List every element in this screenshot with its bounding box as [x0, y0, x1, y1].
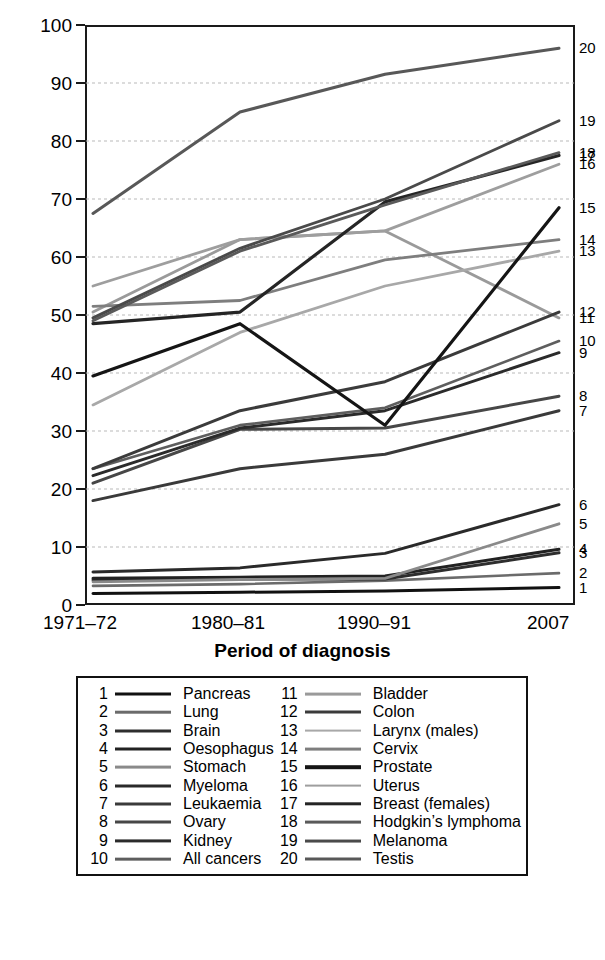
- legend-item-4[interactable]: 4Oesophagus: [84, 740, 274, 758]
- legend-line-swatch: [302, 761, 364, 773]
- legend-label: Prostate: [364, 759, 433, 775]
- end-label-16: 16: [579, 156, 596, 171]
- legend-number: 15: [274, 759, 302, 775]
- y-tick-mark-60: [76, 256, 85, 258]
- legend-line-swatch: [112, 780, 174, 792]
- y-tick-mark-100: [76, 24, 85, 26]
- legend-line-swatch: [302, 798, 364, 810]
- legend-number: 14: [274, 741, 302, 757]
- legend-item-5[interactable]: 5Stomach: [84, 759, 274, 777]
- y-tick-label-70: 70: [20, 190, 72, 209]
- y-tick-label-60: 60: [20, 248, 72, 267]
- legend-item-17[interactable]: 17Breast (females): [274, 795, 521, 813]
- legend-item-8[interactable]: 8Ovary: [84, 814, 274, 832]
- legend-label: Stomach: [174, 759, 246, 775]
- legend-label: Ovary: [174, 814, 226, 830]
- legend-line-swatch: [112, 743, 174, 755]
- legend-number: 16: [274, 778, 302, 794]
- figure-root: Percentage survival 01020304050607080901…: [0, 0, 605, 960]
- y-tick-label-10: 10: [20, 538, 72, 557]
- legend-label: Brain: [174, 723, 220, 739]
- end-label-2: 2: [579, 565, 587, 580]
- end-label-6: 6: [579, 497, 587, 512]
- legend-item-11[interactable]: 11Bladder: [274, 685, 521, 703]
- legend-label: Lung: [174, 704, 219, 720]
- series-line-20: [93, 48, 559, 213]
- series-line-10: [93, 341, 559, 469]
- legend-number: 10: [84, 851, 112, 867]
- y-tick-label-100: 100: [20, 16, 72, 35]
- legend-number: 17: [274, 796, 302, 812]
- legend-item-7[interactable]: 7Leukaemia: [84, 795, 274, 813]
- y-tick-mark-80: [76, 140, 85, 142]
- legend-item-10[interactable]: 10All cancers: [84, 850, 274, 868]
- legend-item-12[interactable]: 12Colon: [274, 703, 521, 721]
- legend-label: All cancers: [174, 851, 261, 867]
- y-tick-label-20: 20: [20, 480, 72, 499]
- legend-number: 7: [84, 796, 112, 812]
- legend-label: Oesophagus: [174, 741, 274, 757]
- legend-label: Uterus: [364, 778, 420, 794]
- y-tick-mark-0: [76, 604, 85, 606]
- x-tick-label-3: 2007: [527, 613, 569, 632]
- legend-label: Melanoma: [364, 833, 448, 849]
- legend-number: 19: [274, 833, 302, 849]
- legend-line-swatch: [112, 853, 174, 865]
- legend-number: 3: [84, 723, 112, 739]
- legend-item-14[interactable]: 14Cervix: [274, 740, 521, 758]
- series-line-17: [93, 156, 559, 324]
- legend-label: Bladder: [364, 686, 428, 702]
- series-line-1: [93, 588, 559, 594]
- series-line-5: [93, 524, 559, 582]
- legend-label: Testis: [364, 851, 414, 867]
- legend-number: 4: [84, 741, 112, 757]
- end-label-3: 3: [579, 545, 587, 560]
- legend-label: Colon: [364, 704, 415, 720]
- line-chart: Percentage survival 01020304050607080901…: [0, 0, 605, 670]
- legend-line-swatch: [112, 816, 174, 828]
- end-label-13: 13: [579, 243, 596, 258]
- legend-number: 12: [274, 704, 302, 720]
- legend-item-15[interactable]: 15Prostate: [274, 759, 521, 777]
- legend-item-16[interactable]: 16Uterus: [274, 777, 521, 795]
- series-canvas: [85, 25, 575, 605]
- end-label-8: 8: [579, 388, 587, 403]
- legend-item-2[interactable]: 2Lung: [84, 703, 274, 721]
- legend-item-1[interactable]: 1Pancreas: [84, 685, 274, 703]
- legend-item-20[interactable]: 20Testis: [274, 850, 521, 868]
- y-tick-mark-10: [76, 546, 85, 548]
- legend-line-swatch: [302, 688, 364, 700]
- y-tick-label-90: 90: [20, 74, 72, 93]
- legend-column-1: 1Pancreas2Lung3Brain4Oesophagus5Stomach6…: [84, 685, 274, 868]
- legend-line-swatch: [302, 835, 364, 847]
- legend-item-6[interactable]: 6Myeloma: [84, 777, 274, 795]
- y-tick-mark-20: [76, 488, 85, 490]
- series-line-7: [93, 411, 559, 501]
- legend-number: 9: [84, 833, 112, 849]
- y-tick-mark-40: [76, 372, 85, 374]
- legend-item-9[interactable]: 9Kidney: [84, 832, 274, 850]
- legend-item-19[interactable]: 19Melanoma: [274, 832, 521, 850]
- end-label-19: 19: [579, 113, 596, 128]
- legend-label: Larynx (males): [364, 723, 479, 739]
- legend-line-swatch: [302, 853, 364, 865]
- y-tick-mark-90: [76, 82, 85, 84]
- y-tick-label-80: 80: [20, 132, 72, 151]
- legend-line-swatch: [112, 688, 174, 700]
- legend-column-2: 11Bladder12Colon13Larynx (males)14Cervix…: [274, 685, 521, 868]
- legend-number: 2: [84, 704, 112, 720]
- x-tick-label-0: 1971–72: [43, 613, 117, 632]
- legend-line-swatch: [112, 798, 174, 810]
- legend-line-swatch: [302, 725, 364, 737]
- legend-number: 11: [274, 686, 302, 702]
- legend-line-swatch: [302, 706, 364, 718]
- legend-item-13[interactable]: 13Larynx (males): [274, 722, 521, 740]
- legend-item-3[interactable]: 3Brain: [84, 722, 274, 740]
- legend-label: Hodgkin’s lymphoma: [364, 814, 521, 830]
- legend-number: 20: [274, 851, 302, 867]
- legend-label: Cervix: [364, 741, 418, 757]
- legend-line-swatch: [302, 743, 364, 755]
- x-tick-label-1: 1980–81: [191, 613, 265, 632]
- y-tick-label-40: 40: [20, 364, 72, 383]
- legend-item-18[interactable]: 18Hodgkin’s lymphoma: [274, 814, 521, 832]
